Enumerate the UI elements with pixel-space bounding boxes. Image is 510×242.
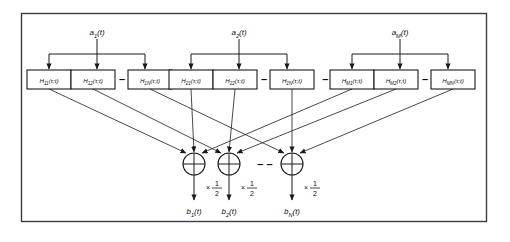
input-aM-arg: (t) [401, 28, 409, 37]
ellipsis-group-aM: – [422, 73, 428, 85]
input-a2-arg: (t) [239, 28, 247, 37]
diagram-border [22, 14, 487, 222]
sum2-gain-symbol: × [241, 184, 245, 191]
diagram-root: a1(t) H11(τ;t) H12(τ;t) – H1N(τ;t) a2(t)… [0, 0, 510, 242]
ellipsis-group-a2: – [261, 73, 267, 85]
sumN-gain-numerator: 1 [313, 180, 317, 187]
sum1-gain-symbol: × [206, 184, 210, 191]
ellipsis-between-summers: – – [257, 158, 272, 170]
sum1-gain-denominator: 2 [215, 190, 219, 197]
channel-diagram-canvas: a1(t) H11(τ;t) H12(τ;t) – H1N(τ;t) a2(t)… [0, 0, 510, 242]
sum2-gain-denominator: 2 [250, 190, 254, 197]
ellipsis-group-a1: – [119, 73, 125, 85]
sumN-gain-symbol: × [304, 184, 308, 191]
input-a1-arg: (t) [97, 28, 105, 37]
sumN-gain-denominator: 2 [313, 190, 317, 197]
sum2-gain-numerator: 1 [250, 180, 254, 187]
sum1-gain-numerator: 1 [215, 180, 219, 187]
